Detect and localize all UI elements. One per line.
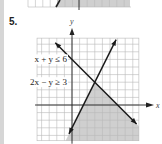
- inequality-graph: xy x + y ≤ 62x − y ≥ 3: [0, 0, 162, 144]
- x-axis-arrow-icon: [146, 103, 154, 108]
- previous-shaded-region: [57, 0, 130, 7]
- arrowhead-icon: [111, 40, 116, 46]
- x-axis-label: x: [155, 101, 160, 110]
- y-axis-arrow-icon: [70, 28, 75, 35]
- inequality-label-1: x + y ≤ 6: [34, 54, 67, 64]
- y-axis-label: y: [69, 17, 74, 26]
- inequality-label-2: 2x − y ≥ 3: [30, 77, 68, 87]
- previous-graph-fragment: [28, 0, 131, 10]
